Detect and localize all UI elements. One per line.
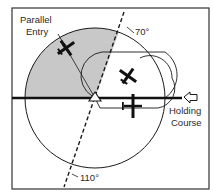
angle-70-leader — [127, 27, 134, 33]
holding-course-label-line1: Holding — [169, 106, 201, 116]
parallel-entry-label-line2: Entry — [26, 27, 48, 37]
holding-course-label-line2: Course — [171, 118, 202, 128]
parallel-entry-label-line1: Parallel — [20, 15, 52, 25]
angle-110-leader — [72, 174, 78, 177]
angle-110-label: 110° — [80, 173, 99, 183]
airplane-icon — [115, 63, 142, 89]
parallel-entry-sector — [25, 28, 119, 98]
angle-70-label: 70° — [135, 27, 149, 37]
inbound-arrow-icon — [184, 92, 197, 103]
